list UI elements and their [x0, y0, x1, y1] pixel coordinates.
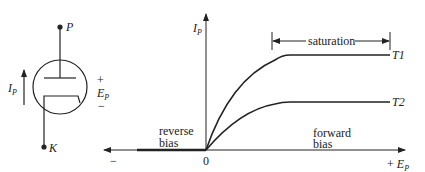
diagram-canvas	[0, 0, 425, 172]
voltage-plus: +	[97, 74, 104, 86]
cathode-label: K	[49, 142, 57, 154]
x-axis-minus: −	[110, 155, 117, 167]
t1-label: T1	[392, 49, 405, 61]
t2-label: T2	[392, 96, 405, 108]
current-label: IP	[8, 82, 17, 99]
forward-bias-label-2: bias	[313, 138, 332, 150]
plate-label: P	[66, 21, 73, 33]
curve-t2	[206, 102, 390, 150]
voltage-minus: −	[98, 100, 105, 112]
origin-label: 0	[203, 155, 209, 167]
vacuum-diode-symbol	[24, 25, 87, 149]
x-axis-label: + EP	[387, 158, 409, 172]
axes	[104, 14, 405, 150]
curves	[206, 55, 390, 150]
reverse-bias-label-2: bias	[159, 137, 178, 149]
saturation-label: saturation	[308, 35, 355, 47]
y-axis-label: IP	[193, 22, 202, 39]
